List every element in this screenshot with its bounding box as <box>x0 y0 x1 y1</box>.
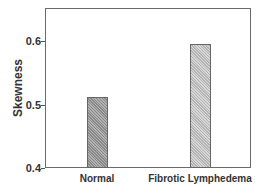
y-tick-0.5 <box>41 105 45 106</box>
y-tick-label: 0.4 <box>26 162 41 174</box>
y-tick-0.6 <box>41 41 45 42</box>
bar-fibrotic-lymphedema <box>190 44 211 168</box>
plot-frame <box>45 8 251 168</box>
y-axis-label: Skewness <box>11 48 25 128</box>
x-category-label: Fibrotic Lymphedema <box>148 173 252 184</box>
y-tick-label: 0.6 <box>26 35 41 47</box>
x-category-label: Normal <box>80 173 114 184</box>
bar-normal <box>87 97 108 168</box>
y-tick-0.4 <box>41 168 45 169</box>
y-tick-label: 0.5 <box>26 99 41 111</box>
